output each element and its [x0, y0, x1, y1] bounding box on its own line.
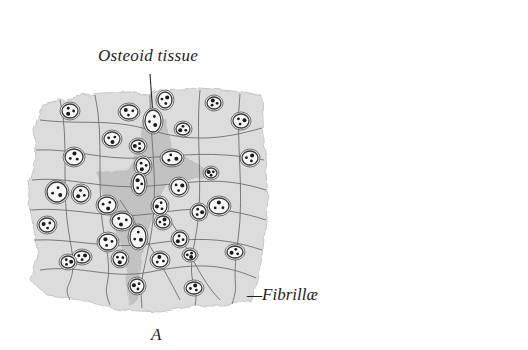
bone-cell [143, 108, 163, 134]
bone-cell [128, 277, 146, 295]
bone-cell [118, 103, 140, 121]
bone-cell [174, 121, 192, 137]
bone-cell [97, 232, 119, 252]
bone-cell [45, 180, 69, 204]
bone-cell [171, 230, 189, 248]
bone-cell [205, 95, 223, 111]
label-fibrillae: —Fibrillæ [247, 285, 318, 305]
bone-cell [111, 250, 129, 268]
bone-cell [59, 254, 77, 270]
bone-cell [190, 203, 208, 221]
bone-cell [240, 149, 260, 167]
bone-cell [131, 172, 147, 196]
bone-cell [102, 130, 122, 148]
figure-letter: A [151, 325, 161, 345]
bone-cell [207, 196, 231, 216]
bone-cell [96, 195, 118, 215]
bone-cell [154, 214, 172, 230]
bone-cell [63, 147, 85, 167]
bone-cell [60, 102, 80, 120]
bone-cell [156, 90, 174, 110]
bone-cell [169, 177, 189, 197]
bone-cell [129, 138, 147, 154]
bone-cell [160, 149, 184, 167]
bone-cell [203, 166, 219, 180]
bone-cell [182, 248, 198, 262]
bone-cell [128, 224, 148, 250]
bone-cell [37, 216, 57, 234]
label-osteoid-tissue: Osteoid tissue [98, 46, 198, 66]
bone-cell [151, 196, 169, 216]
bone-cell [71, 184, 91, 204]
bone-cell [150, 251, 170, 269]
bone-cell [231, 112, 251, 130]
bone-cell [225, 244, 245, 260]
bone-cell [184, 280, 204, 296]
